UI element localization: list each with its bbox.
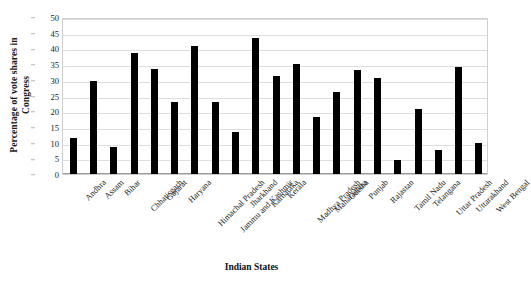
x-axis-tick-text: Gujarat [165, 178, 189, 202]
bar [374, 78, 381, 174]
gridline [63, 50, 487, 51]
y-axis-tick-label: 15 [35, 124, 59, 133]
y-axis-tick-mark [31, 65, 35, 66]
bar [191, 46, 198, 174]
gridline [63, 66, 487, 67]
y-axis-tick-label: 40 [35, 45, 59, 54]
bar [110, 147, 117, 174]
bar [252, 38, 259, 174]
y-axis-tick-label: 30 [35, 77, 59, 86]
bar [131, 53, 138, 174]
bar [394, 160, 401, 174]
bar [455, 67, 462, 174]
y-axis-tick-mark [31, 143, 35, 144]
x-axis-title: Indian States [0, 262, 503, 272]
bar [90, 81, 97, 174]
bar [415, 109, 422, 174]
y-axis-title-line1: Percentage of vote shares in [8, 37, 20, 152]
y-axis-tick-label: 25 [35, 92, 59, 101]
bar [151, 69, 158, 174]
x-axis-tick-label: Bihar [122, 178, 142, 198]
x-axis-tick-text: Rajastan [389, 178, 416, 205]
bar [333, 92, 340, 174]
plot-area [62, 18, 488, 175]
y-axis-tick-mark [31, 18, 35, 19]
y-axis-tick-mark [31, 49, 35, 50]
y-axis-title-line2: Congress [20, 37, 32, 152]
y-axis-tick-label: 20 [35, 108, 59, 117]
y-axis-tick-label: 50 [35, 14, 59, 23]
bar [475, 143, 482, 174]
x-axis-tick-text: Bihar [122, 178, 142, 198]
bar [435, 150, 442, 174]
gridline [63, 35, 487, 36]
bar [354, 70, 361, 174]
y-axis-tick-label: 45 [35, 29, 59, 38]
y-axis-tick-label: 0 [35, 171, 59, 180]
x-axis-tick-text: Haryana [186, 178, 213, 205]
y-axis-tick-mark [31, 112, 35, 113]
y-axis-tick-label: 5 [35, 155, 59, 164]
bar [273, 76, 280, 174]
bar [171, 102, 178, 174]
y-axis-tick-mark [31, 159, 35, 160]
y-axis-title: Percentage of vote shares in Congress [0, 0, 40, 190]
y-axis-tick-label: 10 [35, 139, 59, 148]
x-axis-tick-label: Gujarat [165, 178, 189, 202]
bar [313, 117, 320, 174]
y-axis-tick-mark [31, 80, 35, 81]
y-axis-tick-label: 35 [35, 61, 59, 70]
bar [232, 132, 239, 174]
y-axis-tick-mark [31, 33, 35, 34]
bar [70, 138, 77, 174]
bar [293, 64, 300, 174]
x-axis-tick-label: Haryana [186, 178, 213, 205]
x-axis-tick-label: Rajastan [389, 178, 416, 205]
bar [212, 102, 219, 174]
y-axis-tick-mark [31, 175, 35, 176]
gridline [63, 19, 487, 20]
y-axis-tick-mark [31, 96, 35, 97]
y-axis-tick-mark [31, 127, 35, 128]
